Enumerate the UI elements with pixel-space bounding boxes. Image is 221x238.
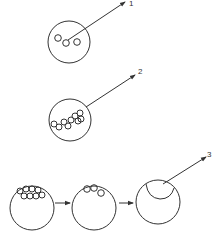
- particle: [74, 39, 81, 46]
- particle: [29, 186, 35, 192]
- panel-1-cell-group: 1: [48, 0, 134, 63]
- particle: [27, 193, 33, 199]
- cell-2: [49, 99, 91, 141]
- particle: [65, 123, 71, 129]
- particle: [21, 193, 27, 199]
- label-1: 1: [129, 0, 134, 8]
- cell-3b: [72, 186, 116, 230]
- particle: [77, 110, 83, 116]
- panel-3-sequence-group: 3: [10, 150, 212, 230]
- label-3: 3: [207, 150, 212, 159]
- particle: [39, 192, 45, 198]
- particle: [33, 193, 39, 199]
- arrow-3: [163, 157, 206, 184]
- particle: [55, 35, 62, 42]
- diagram-canvas: 1 2 3: [0, 0, 221, 238]
- arrow-1: [68, 2, 125, 40]
- cell-3c: [136, 180, 180, 224]
- particle: [63, 40, 70, 47]
- particle: [56, 124, 62, 130]
- cell-3a: [10, 186, 54, 230]
- label-2: 2: [138, 67, 143, 76]
- particle: [98, 190, 105, 197]
- vacuole: [146, 184, 174, 199]
- arrow-2: [86, 75, 135, 107]
- panel-2-cell-group: 2: [49, 67, 143, 141]
